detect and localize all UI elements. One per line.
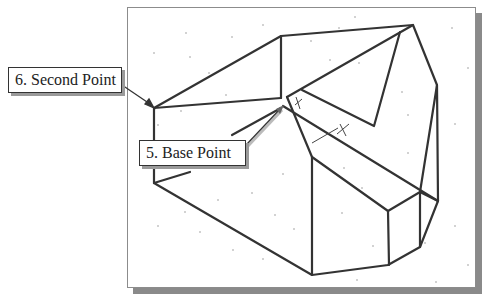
callout-base-point-label: 5. Base Point [146,145,231,161]
callout-base-point: 5. Base Point [139,140,246,166]
leader-arrow-base-point [246,105,284,147]
callout-second-point-label: 6. Second Point [15,72,116,88]
callout-second-point: 6. Second Point [8,67,122,93]
rubber-band-line [312,128,338,143]
leader-arrow-second-point [122,85,154,108]
